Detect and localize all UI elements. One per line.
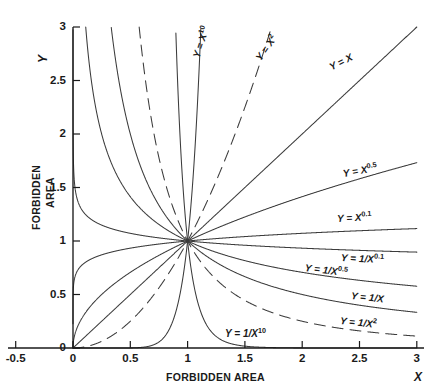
x-tick-label: -0.5 xyxy=(2,352,30,364)
x-forbidden-area-label: FORBIDDEN AREA xyxy=(166,371,265,383)
curve-y-x-10 xyxy=(73,28,201,348)
curve-label-exponent: 0.5 xyxy=(366,160,377,171)
y-tick-label: 2 xyxy=(40,127,66,139)
curve-label-text: Y = X xyxy=(337,212,362,224)
y-forbidden-area-label-line1: FORBIDDEN xyxy=(30,165,42,230)
x-tick-label: 0 xyxy=(59,352,87,364)
y-tick-label: 3 xyxy=(40,20,66,32)
plot-canvas xyxy=(0,0,436,391)
y-tick-label: 1 xyxy=(40,234,66,246)
x-tick-label: 2.5 xyxy=(346,352,374,364)
x-tick-label: 1 xyxy=(174,352,202,364)
y-tick-label: 0 xyxy=(40,341,66,353)
curve-label-text: Y = 1/X xyxy=(225,328,258,339)
x-tick-label: 1.5 xyxy=(231,352,259,364)
curve-label-y-x-0-1: Y = X0.1 xyxy=(337,211,372,224)
x-tick-label: 3 xyxy=(403,352,431,364)
curve-label-y-1-x-0-1: Y = 1/X0.1 xyxy=(341,252,384,265)
x-tick-label: 0.5 xyxy=(116,352,144,364)
x-tick-label: 2 xyxy=(288,352,316,364)
curve-label-y-1-x-10: Y = 1/X10 xyxy=(225,328,266,339)
curve-label-exponent: 0.1 xyxy=(374,251,384,261)
curve-label-text: Y = 1/X xyxy=(341,252,374,265)
y-axis-variable: Y xyxy=(36,55,50,63)
curve-y-x-2 xyxy=(73,28,271,348)
curve-label-exponent: 0.5 xyxy=(338,264,349,274)
curve-label-exponent: 0.1 xyxy=(361,209,371,219)
chart-figure: Y X FORBIDDEN AREA FORBIDDEN AREA -0.500… xyxy=(0,0,436,391)
curve-label-exponent: 10 xyxy=(258,326,266,335)
y-tick-label: 1.5 xyxy=(40,181,66,193)
x-axis-variable: X xyxy=(414,370,422,384)
y-tick-label: 0.5 xyxy=(40,288,66,300)
y-tick-label: 2.5 xyxy=(40,74,66,86)
